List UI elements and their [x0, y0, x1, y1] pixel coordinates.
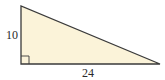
right-triangle [21, 6, 160, 64]
vertical-leg-label: 10 [6, 29, 18, 41]
horizontal-leg-label: 24 [82, 67, 94, 79]
